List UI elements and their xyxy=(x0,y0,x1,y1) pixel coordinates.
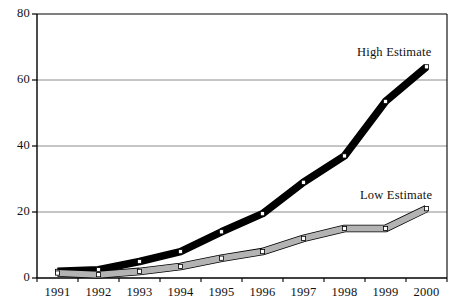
chart-container: 020406080 199119921993199419951996199719… xyxy=(0,0,455,307)
data-point-marker xyxy=(178,250,182,254)
data-point-marker xyxy=(219,230,223,234)
data-point-marker xyxy=(383,226,387,230)
data-point-marker xyxy=(260,212,264,216)
data-point-marker xyxy=(96,273,100,277)
data-point-marker xyxy=(55,271,59,275)
y-tick-label: 80 xyxy=(2,6,30,21)
data-point-marker xyxy=(137,259,141,263)
y-tick-label: 40 xyxy=(2,138,30,153)
data-point-marker xyxy=(342,226,346,230)
y-tick-label: 20 xyxy=(2,204,30,219)
data-point-marker xyxy=(178,264,182,268)
data-point-marker xyxy=(301,236,305,240)
series-line-outline-1 xyxy=(58,67,427,272)
data-point-marker xyxy=(342,154,346,158)
y-tick-label: 60 xyxy=(2,72,30,87)
data-point-marker xyxy=(424,207,428,211)
data-point-marker xyxy=(301,180,305,184)
data-point-marker xyxy=(137,269,141,273)
data-point-marker xyxy=(424,65,428,69)
series-line-1 xyxy=(58,67,427,272)
data-point-marker xyxy=(383,99,387,103)
series-annotation-high-estimate: High Estimate xyxy=(357,45,431,60)
series-group xyxy=(55,65,428,277)
series-annotation-low-estimate: Low Estimate xyxy=(360,188,432,203)
data-point-marker xyxy=(260,250,264,254)
y-tick-label: 0 xyxy=(2,270,30,285)
data-point-marker xyxy=(219,256,223,260)
x-tick-label: 2000 xyxy=(403,285,451,300)
